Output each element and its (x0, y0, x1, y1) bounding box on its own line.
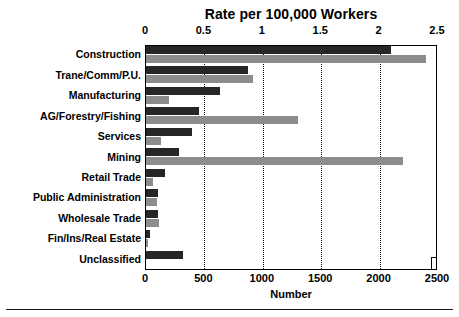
bar-row (146, 210, 436, 230)
top-tick-label: 1 (259, 24, 265, 36)
category-label: Public Administration (33, 192, 141, 203)
category-label: Retail Trade (81, 172, 141, 183)
bottom-tick-label: 0 (142, 272, 148, 284)
top-tick-label: 1.5 (313, 24, 328, 36)
bar-row (146, 230, 436, 250)
category-label: Wholesale Trade (58, 213, 141, 224)
category-label: Manufacturing (69, 90, 141, 101)
bar-deaths-rate (146, 75, 253, 83)
plot-area: Frequency Deaths/1000,000 Workers (145, 45, 437, 270)
bar-deaths-rate (146, 116, 298, 124)
top-tick-label: 2.5 (429, 24, 444, 36)
bar-deaths-rate (146, 55, 426, 63)
bar-row (146, 66, 436, 86)
bottom-tick-label: 500 (194, 272, 212, 284)
footer-divider (6, 309, 453, 310)
bar-deaths-rate (146, 96, 169, 104)
bar-row (146, 128, 436, 148)
bar-frequency (146, 251, 183, 259)
bar-row (146, 251, 436, 270)
chart-legend: Frequency Deaths/1000,000 Workers (431, 257, 437, 270)
bottom-tick-label: 2500 (425, 272, 449, 284)
category-label: Trane/Comm/P.U. (55, 70, 141, 81)
bar-row (146, 87, 436, 107)
bar-deaths-rate (146, 219, 159, 227)
bottom-axis-ticks: 05001000150020002500 (145, 272, 437, 286)
chart-title: Rate per 100,000 Workers (145, 6, 437, 22)
bar-frequency (146, 46, 391, 54)
bar-frequency (146, 169, 165, 177)
category-label: Fin/Ins/Real Estate (48, 233, 141, 244)
x-axis-label: Number (145, 288, 437, 300)
bar-deaths-rate (146, 157, 403, 165)
bar-frequency (146, 128, 192, 136)
bar-frequency (146, 66, 248, 74)
bar-deaths-rate (146, 137, 161, 145)
bar-row (146, 46, 436, 66)
bar-row (146, 169, 436, 189)
category-label: Unclassified (79, 254, 141, 265)
bar-row (146, 189, 436, 209)
top-axis-ticks: 00.511.522.5 (145, 24, 437, 38)
bottom-tick-label: 1500 (308, 272, 332, 284)
category-label: Mining (107, 152, 141, 163)
bar-deaths-rate (146, 198, 157, 206)
bar-frequency (146, 230, 150, 238)
top-tick-label: 0 (142, 24, 148, 36)
bar-deaths-rate (146, 178, 153, 186)
bar-frequency (146, 148, 179, 156)
category-axis-labels: ConstructionTrane/Comm/P.U.Manufacturing… (0, 45, 141, 270)
top-tick-label: 0.5 (196, 24, 211, 36)
chart-figure: Rate per 100,000 Workers 00.511.522.5 Fr… (0, 0, 459, 317)
bar-frequency (146, 107, 199, 115)
bar-deaths-rate (146, 239, 148, 247)
bar-rows (146, 46, 436, 269)
category-label: AG/Forestry/Fishing (40, 111, 141, 122)
top-tick-label: 2 (376, 24, 382, 36)
bar-frequency (146, 189, 158, 197)
bottom-tick-label: 1000 (250, 272, 274, 284)
bar-row (146, 148, 436, 168)
bar-row (146, 107, 436, 127)
bar-frequency (146, 210, 158, 218)
bar-frequency (146, 87, 220, 95)
category-label: Construction (76, 49, 141, 60)
category-label: Services (98, 131, 141, 142)
bottom-tick-label: 2000 (366, 272, 390, 284)
